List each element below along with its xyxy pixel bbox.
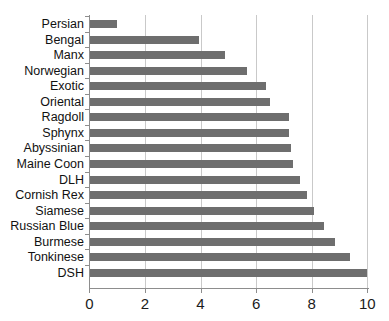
bar: [89, 82, 266, 90]
category-label: Tonkinese: [0, 251, 84, 264]
category-label: Cornish Rex: [0, 189, 84, 202]
category-label: Oriental: [0, 96, 84, 109]
category-label: Russian Blue: [0, 220, 84, 233]
x-tick-4: [201, 288, 202, 293]
x-axis-line: [89, 288, 369, 289]
category-label: Abyssinian: [0, 142, 84, 155]
category-label: Sphynx: [0, 127, 84, 140]
x-tick-6: [256, 288, 257, 293]
bar: [89, 238, 335, 246]
category-label: Bengal: [0, 34, 84, 47]
x-tick-0: [89, 288, 90, 293]
bar: [89, 269, 367, 277]
bar: [89, 176, 300, 184]
x-tick-label-0: 0: [69, 295, 109, 312]
category-label: DSH: [0, 267, 84, 280]
category-label: Persian: [0, 18, 84, 31]
x-tick-label-8: 8: [292, 295, 332, 312]
category-label: Ragdoll: [0, 111, 84, 124]
bar: [89, 113, 289, 121]
bar-chart: 0246810 PersianBengalManxNorwegianExotic…: [0, 0, 389, 321]
bar: [89, 160, 293, 168]
x-tick-10: [367, 288, 368, 293]
gridline-8: [312, 15, 313, 288]
category-label: Norwegian: [0, 65, 84, 78]
bar: [89, 98, 270, 106]
category-label: Manx: [0, 49, 84, 62]
bar: [89, 129, 289, 137]
category-label: Exotic: [0, 80, 84, 93]
x-tick-label-10: 10: [347, 295, 387, 312]
category-label: Siamese: [0, 205, 84, 218]
category-label: Burmese: [0, 236, 84, 249]
bar: [89, 144, 291, 152]
x-tick-label-4: 4: [181, 295, 221, 312]
category-label: Maine Coon: [0, 158, 84, 171]
bar: [89, 36, 199, 44]
bar: [89, 20, 117, 28]
bar: [89, 253, 350, 261]
bar: [89, 222, 324, 230]
y-axis-line: [89, 15, 90, 289]
x-tick-label-2: 2: [125, 295, 165, 312]
x-tick-8: [312, 288, 313, 293]
plot-area: [89, 15, 368, 288]
gridline-10: [367, 15, 368, 288]
bar: [89, 191, 307, 199]
x-tick-label-6: 6: [236, 295, 276, 312]
bar: [89, 207, 314, 215]
bar: [89, 67, 247, 75]
bar: [89, 51, 225, 59]
category-label: DLH: [0, 174, 84, 187]
x-tick-2: [145, 288, 146, 293]
